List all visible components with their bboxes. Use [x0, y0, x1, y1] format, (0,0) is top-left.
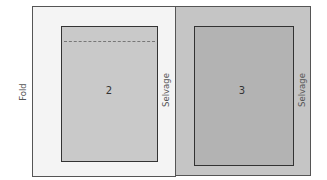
- piece-3-label: 3: [232, 85, 252, 96]
- selvage-label-right-panel: Selvage: [296, 60, 308, 120]
- fold-label: Fold: [17, 62, 29, 122]
- piece-2-label: 2: [99, 85, 119, 96]
- pattern-piece-3: [194, 26, 294, 166]
- selvage-label-left-panel: Selvage: [160, 60, 172, 120]
- fold-line-dashed: [64, 41, 155, 42]
